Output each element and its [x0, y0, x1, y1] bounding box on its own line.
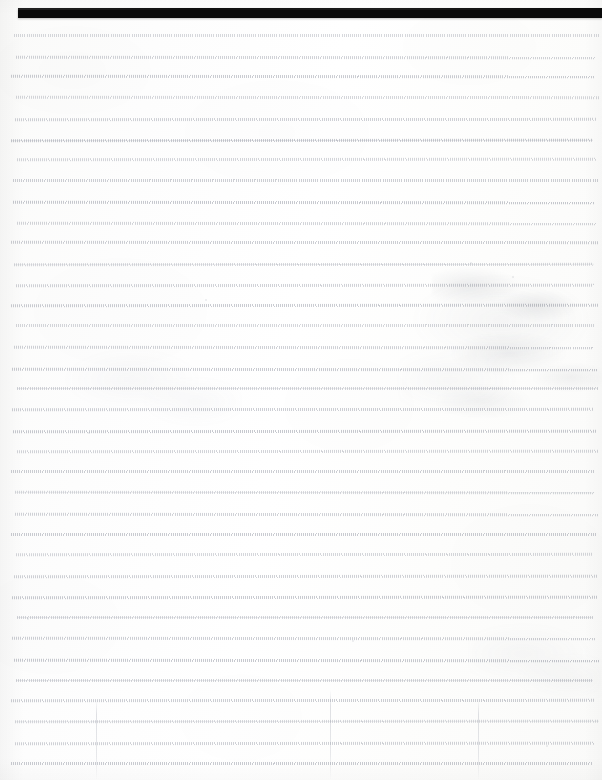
ruled-line	[11, 75, 594, 79]
ruled-line	[11, 533, 596, 536]
ruled-line	[14, 346, 593, 349]
ruled-line	[13, 201, 594, 204]
ruled-line	[12, 596, 598, 599]
scan-fleck	[205, 299, 207, 301]
ruled-line	[17, 387, 598, 390]
ruled-line	[16, 553, 593, 556]
ruled-line	[12, 408, 593, 411]
ruled-line	[13, 430, 596, 434]
top-black-bar	[18, 8, 602, 18]
ruled-line	[12, 636, 596, 639]
scan-fleck	[352, 640, 354, 642]
ruled-line	[15, 742, 595, 745]
ruled-line	[12, 367, 598, 371]
ruled-line	[11, 304, 599, 307]
ruled-line	[17, 450, 599, 453]
ruled-line	[14, 263, 594, 266]
scan-fleck	[27, 618, 29, 620]
scan-fleck	[546, 745, 548, 747]
lower-center-guide	[330, 690, 331, 780]
ruled-line	[15, 720, 599, 724]
ruled-line	[16, 324, 596, 327]
ruled-line	[11, 138, 593, 142]
ruled-line	[14, 34, 599, 37]
ruled-line	[13, 179, 598, 182]
scan-fleck	[88, 432, 90, 434]
lower-right-guide	[478, 700, 479, 780]
upper-left-guide	[96, 700, 97, 780]
ruled-line	[16, 679, 593, 682]
ruled-line	[17, 221, 596, 225]
ruled-line	[15, 513, 598, 517]
ruled-line	[11, 470, 594, 473]
ruled-lines-layer	[0, 0, 602, 780]
ruled-line	[17, 158, 597, 161]
ruled-line	[14, 575, 598, 579]
ruled-line	[11, 699, 595, 702]
scan-fleck	[512, 276, 514, 278]
ruled-line	[14, 658, 599, 662]
ruled-line	[15, 491, 594, 494]
ruled-line	[17, 616, 593, 619]
ruled-line	[16, 284, 594, 288]
ruled-line	[16, 96, 599, 99]
ruled-line	[16, 55, 595, 58]
scanned-page	[0, 0, 602, 780]
ruled-line	[15, 117, 597, 120]
scan-fleck	[470, 262, 472, 264]
ruled-line	[11, 241, 599, 244]
ruled-line	[11, 762, 593, 765]
